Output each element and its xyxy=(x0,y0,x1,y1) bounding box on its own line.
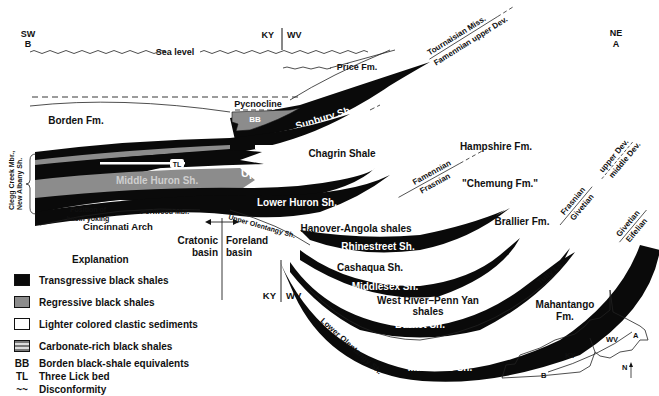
ky-label-top: KY xyxy=(261,30,274,40)
sw-label: SW xyxy=(21,29,36,39)
clegg-label-2: New Albany Sh. xyxy=(16,158,24,210)
rhinestreet-label: Rhinestreet Sh. xyxy=(341,241,415,252)
borden-top-line xyxy=(30,102,230,112)
tournaisian-boundary: Tournaisian Miss. Famennian upper Dev. xyxy=(424,0,520,68)
portwood-label: Portwood Mbr. xyxy=(141,208,190,215)
clegg-label-1: Clegg Creek Mbr., xyxy=(8,151,16,210)
basin-yoking-label-1: Position of xyxy=(70,206,107,213)
legend-item-carbonate: Carbonate-rich black shales xyxy=(14,335,254,357)
legend-abbr-bb: BB Borden black-shale equivalents xyxy=(14,357,254,370)
abbr: BB xyxy=(14,358,30,369)
upper-middle-dev-boundary: upper Dev. middle Dev. xyxy=(594,133,642,185)
chemung-label: "Chemung Fm." xyxy=(462,178,538,189)
famennian-frasnian-boundary: Famennian Frasnian xyxy=(394,143,487,207)
brallier-label: Brallier Fm. xyxy=(494,216,549,227)
legend-label: Lighter colored clastic sediments xyxy=(39,319,198,330)
inset-north-label: N xyxy=(622,363,627,372)
legend-label: Three Lick bed xyxy=(39,371,110,382)
bb-label: BB xyxy=(249,115,261,124)
gray-swatch-icon xyxy=(14,296,30,308)
upper-huron-label: Upper Huron Sh. xyxy=(241,167,328,179)
burket-label: Burket Sh. xyxy=(395,319,445,330)
hampshire-label: Hampshire Fm. xyxy=(460,141,532,152)
tl-label: TL xyxy=(173,161,182,168)
berea-bedford-white xyxy=(255,145,277,149)
ky-label-bottom: KY xyxy=(263,290,277,301)
wv-label-bottom: WV xyxy=(286,290,302,301)
west-river-label-1: West River–Penn Yan xyxy=(377,295,479,306)
legend-label: Regressive black shales xyxy=(39,297,155,308)
legend-item-clastic: Lighter colored clastic sediments xyxy=(14,313,254,335)
middlesex-label: Middlesex Sh. xyxy=(352,281,419,292)
legend-item-transgressive: Transgressive black shales xyxy=(14,269,254,291)
inset-ky-label: KY xyxy=(565,351,575,360)
middle-huron-label: Middle Huron Sh. xyxy=(116,175,198,186)
tully-label: Tully Ls. xyxy=(536,259,566,286)
disconformity-icon: ~~ xyxy=(14,384,30,395)
chagrin-label: Chagrin Shale xyxy=(308,148,376,159)
legend-label: Disconformity xyxy=(39,384,106,395)
cincinnati-arch-label: Cincinnati Arch xyxy=(83,221,153,232)
legend-label: Transgressive black shales xyxy=(39,275,169,286)
frasnian-givetian-boundary: Frasnian Givetian xyxy=(552,180,599,231)
ne-label: NE xyxy=(610,28,623,38)
sea-level-line-right xyxy=(200,51,368,54)
legend-label: Borden black-shale equivalents xyxy=(39,358,189,369)
givetian-eifelian-boundary: Givetian Eifelian xyxy=(612,204,654,249)
cratonic-label-1: Cratonic xyxy=(177,235,218,246)
inset-a-label: A xyxy=(633,331,639,340)
brick-swatch-icon xyxy=(14,340,30,352)
marcellus-label: Marcellus Sh. xyxy=(408,362,473,373)
chagrin-dash-line xyxy=(370,105,380,110)
sea-level-line-left xyxy=(30,51,166,54)
abbr: TL xyxy=(14,371,30,382)
a-point-label: A xyxy=(613,39,620,49)
lower-huron-label: Lower Huron Sh. xyxy=(257,197,337,208)
borden-label: Borden Fm. xyxy=(48,115,104,126)
wv-label-top: WV xyxy=(287,30,302,40)
legend-item-regressive: Regressive black shales xyxy=(14,291,254,313)
black-swatch-icon xyxy=(14,274,30,286)
west-river-label-2: shales xyxy=(412,306,444,317)
sea-level-label: Sea level xyxy=(156,47,195,57)
mahantango-label-1: Mahantango xyxy=(536,299,595,310)
legend-label: Carbonate-rich black shales xyxy=(39,341,172,352)
price-label: Price Fm. xyxy=(337,62,378,72)
clegg-bracket xyxy=(26,154,36,214)
white-swatch-icon xyxy=(14,318,30,330)
price-disconformity xyxy=(283,67,331,69)
b-point-label: B xyxy=(25,39,32,49)
mahantango-label-2: Fm. xyxy=(556,311,574,322)
pycnocline-label: Pycnocline xyxy=(234,99,282,109)
foreland-label-1: Foreland xyxy=(226,235,268,246)
cleveland-label: Cleveland Sh. xyxy=(262,153,308,160)
hanover-label: Hanover-Angola shales xyxy=(300,223,412,234)
legend-title: Explanation xyxy=(72,254,254,265)
legend-abbr-disconformity: ~~ Disconformity xyxy=(14,383,254,396)
arrow-left-icon xyxy=(205,219,211,225)
legend: Explanation Transgressive black shales R… xyxy=(14,254,254,396)
legend-abbr-tl: TL Three Lick bed xyxy=(14,370,254,383)
cashaqua-label: Cashaqua Sh. xyxy=(337,262,403,273)
inset-wv-label: WV xyxy=(606,335,618,344)
inset-b-label: B xyxy=(541,371,547,380)
